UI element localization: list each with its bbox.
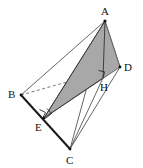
- vertex-dot-B: [20, 94, 23, 97]
- vertex-label-A: A: [101, 5, 109, 17]
- vertex-dot-E: [43, 117, 46, 120]
- vertex-label-B: B: [8, 88, 15, 100]
- vertex-label-H: H: [100, 81, 108, 93]
- vertex-label-C: C: [66, 154, 73, 166]
- vertex-label-E: E: [35, 121, 42, 133]
- vertex-dot-C: [69, 148, 72, 151]
- vertex-dot-D: [119, 66, 122, 69]
- vertex-dot-A: [103, 19, 106, 22]
- geometry-canvas: A B C D E H: [0, 0, 143, 168]
- geometry-figure: A B C D E H: [0, 0, 143, 168]
- vertex-label-D: D: [124, 61, 132, 73]
